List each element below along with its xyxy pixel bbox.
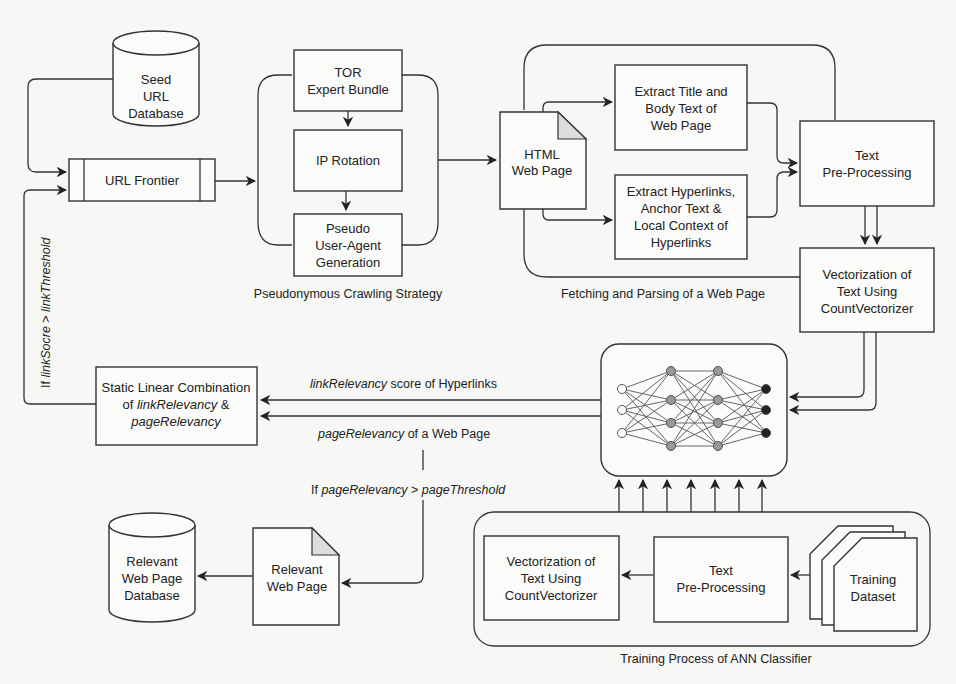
link-relevancy-edge-label: linkRelevancy score of Hyperlinks [310,377,497,391]
seed-db-line-2: URL [143,89,169,104]
seed-url-database: Seed URL Database [113,31,199,126]
static-combo-line-3: pageRelevancy [130,414,222,429]
training-preprocessing: Text Pre-Processing [654,537,788,622]
tor-line-1: TOR [334,65,361,80]
static-linear-combination: Static Linear Combination of linkRelevan… [96,367,257,445]
training-dataset-line-2: Dataset [851,589,896,604]
pseudo-user-agent-generation: Pseudo User-Agent Generation [294,214,402,276]
svg-text:URL: URL [143,89,169,104]
pseudo-ua-line-2: User-Agent [315,238,381,253]
extract-title-line-3: Web Page [651,118,711,133]
static-combo-line-1: Static Linear Combination [102,380,251,395]
svg-text:Seed: Seed [141,72,171,87]
train-vectorization-line-3: CountVectorizer [505,588,598,603]
relevant-page-line-1: Relevant [271,562,323,577]
ip-rotation: IP Rotation [294,130,402,191]
train-vectorization-line-1: Vectorization of [507,554,596,569]
relevant-db-line-2: Web Page [122,571,182,586]
training-dataset: Training Dataset [810,526,917,631]
train-preproc-line-2: Pre-Processing [677,580,766,595]
pseudo-ua-line-1: Pseudo [326,221,370,236]
html-web-page: HTML Web Page [500,112,586,209]
static-combo-line-2: of linkRelevancy & [123,397,230,412]
train-preproc-line-1: Text [709,563,733,578]
vectorization-countvectorizer: Vectorization of Text Using CountVectori… [800,248,934,332]
relevant-db-line-1: Relevant [126,554,178,569]
text-preproc-line-1: Text [855,148,879,163]
url-frontier: URL Frontier [69,159,215,201]
extract-links-line-1: Extract Hyperlinks, [627,184,735,199]
train-vectorization-line-2: Text Using [521,571,582,586]
page-threshold-condition: If pageRelevancy > pageThreshold [311,483,506,497]
extract-title-body: Extract Title and Body Text of Web Page [615,65,747,150]
pseudo-ua-line-3: Generation [316,255,380,270]
relevant-web-page: Relevant Web Page [253,528,339,625]
ip-rotation-label: IP Rotation [316,153,380,168]
tor-line-2: Expert Bundle [307,82,389,97]
ann-classifier [601,344,787,476]
extract-title-line-1: Extract Title and [634,84,727,99]
text-preproc-line-2: Pre-Processing [823,165,912,180]
tor-expert-bundle: TOR Expert Bundle [294,50,402,111]
crawling-strategy-caption: Pseudonymous Crawling Strategy [254,287,443,301]
training-caption: Training Process of ANN Classifier [620,652,811,666]
page-relevancy-edge-label: pageRelevancy of a Web Page [317,427,490,441]
extract-title-line-2: Body Text of [645,101,717,116]
html-page-line-2: Web Page [512,163,572,178]
relevant-web-page-database: Relevant Web Page Database [109,513,195,622]
extract-links-line-3: Local Context of [634,218,728,233]
seed-db-line-3: Database [128,106,184,121]
seed-db-line-1: Seed [141,72,171,87]
extract-links-line-4: Hyperlinks [651,235,712,250]
text-preprocessing: Text Pre-Processing [800,121,934,206]
html-page-line-1: HTML [524,147,559,162]
link-threshold-condition: If linkSocre > linkThreshold [39,237,53,388]
vectorization-line-2: Text Using [837,284,898,299]
extract-links-line-2: Anchor Text & [641,201,722,216]
url-frontier-label: URL Frontier [105,173,180,188]
fetching-caption: Fetching and Parsing of a Web Page [561,287,765,301]
vectorization-line-1: Vectorization of [823,267,912,282]
relevant-page-line-2: Web Page [267,579,327,594]
svg-text:Database: Database [128,106,184,121]
extract-hyperlinks: Extract Hyperlinks, Anchor Text & Local … [615,175,747,259]
training-dataset-line-1: Training [850,572,896,587]
crawler-architecture-diagram: Seed URL Database URL Frontier TOR Exper… [0,0,956,684]
vectorization-line-3: CountVectorizer [821,301,914,316]
relevant-db-line-3: Database [124,588,180,603]
training-vectorization: Vectorization of Text Using CountVectori… [484,536,619,620]
